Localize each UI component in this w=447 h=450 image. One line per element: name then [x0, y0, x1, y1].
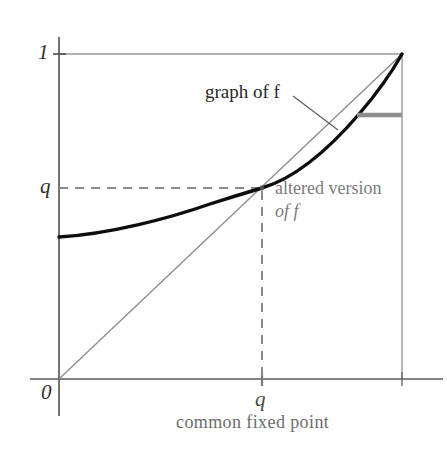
figure-caption: common fixed point [176, 412, 329, 432]
origin-label-zero: 0 [41, 381, 52, 405]
plot-canvas [0, 0, 447, 450]
fixed-point-marker [260, 186, 265, 191]
y-axis-label-q: q [40, 175, 51, 199]
annotation-graph-of-f: graph of f [205, 81, 280, 102]
y-axis-label-one: 1 [38, 41, 49, 65]
leader-line-graph-of-f [293, 96, 338, 130]
annotation-altered-version-line2: of f [275, 200, 381, 223]
annotation-altered-version-line1: altered version [275, 178, 381, 198]
figure-container: 1 q 0 q common fixed point graph of f al… [0, 0, 447, 450]
annotation-altered-version: altered version of f [275, 177, 381, 222]
x-axis-label-q: q [255, 388, 266, 412]
